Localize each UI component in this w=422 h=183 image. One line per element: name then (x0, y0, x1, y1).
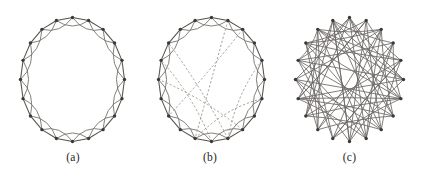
graph-node (263, 78, 266, 81)
graph-node (304, 114, 307, 117)
edge-layer (21, 18, 125, 142)
graph-node (391, 41, 394, 44)
graph-node (29, 41, 32, 44)
panel-small-world-network: (b) (140, 0, 280, 183)
arc-edge (103, 29, 122, 60)
graph-node (113, 114, 116, 117)
graph-node (71, 140, 74, 143)
ring-edge (159, 60, 162, 79)
graph-node (40, 128, 43, 131)
graph-node (193, 19, 196, 22)
arc-edge (30, 21, 56, 44)
graph-node (120, 97, 123, 100)
graph-node (399, 59, 402, 62)
rewired-edge (169, 43, 228, 138)
arc-edge (89, 116, 115, 139)
graph-node (241, 28, 244, 31)
edge-layer (296, 18, 404, 142)
graph-node (179, 28, 182, 31)
graph-node (167, 41, 170, 44)
arc-edge (23, 60, 29, 98)
graph-node (40, 28, 43, 31)
graph-node (87, 137, 90, 140)
arc-edge (256, 60, 262, 98)
caption-panel-a: (a) (0, 150, 146, 164)
graph-node (364, 137, 367, 140)
arc-edge (195, 21, 228, 27)
arc-edge (169, 21, 196, 44)
graph-node (316, 28, 319, 31)
ring-edge (262, 80, 265, 99)
ring-edge (21, 80, 24, 99)
graph-node (380, 28, 383, 31)
graph-regular-ring-lattice (0, 0, 146, 150)
graph-node (253, 114, 256, 117)
rewired-edge (169, 29, 243, 116)
random-edge (350, 18, 404, 80)
rewired-edge (195, 21, 228, 139)
graph-node (157, 78, 160, 81)
graph-node (304, 41, 307, 44)
graph-node (402, 78, 405, 81)
arc-edge (195, 133, 228, 139)
edge-layer (159, 18, 265, 142)
arc-edge (56, 21, 88, 27)
arc-edge (103, 99, 122, 130)
graph-node (253, 41, 256, 44)
graph-node (120, 59, 123, 62)
graph-node (29, 114, 32, 117)
arc-edge (243, 99, 262, 130)
graph-node (101, 128, 104, 131)
graph-node (210, 140, 213, 143)
graph-node (296, 97, 299, 100)
arc-edge (89, 21, 115, 44)
graph-node (113, 41, 116, 44)
graph-node (348, 140, 351, 143)
graph-node (226, 19, 229, 22)
arc-edge (116, 60, 122, 98)
graph-node (167, 114, 170, 117)
graph-node (294, 78, 297, 81)
graph-node (123, 78, 126, 81)
arc-edge (23, 29, 42, 60)
graph-node (193, 137, 196, 140)
ring-edge (254, 99, 262, 116)
rewired-edge (159, 80, 243, 130)
node-layer (19, 16, 126, 143)
arc-edge (169, 116, 196, 139)
random-edge (296, 80, 318, 130)
graph-node (159, 97, 162, 100)
figure-root: (a) (b) (c) (0, 0, 422, 183)
graph-node (179, 128, 182, 131)
ring-edge (23, 99, 30, 116)
graph-node (364, 19, 367, 22)
graph-node (159, 59, 162, 62)
rewired-edge (161, 60, 211, 141)
ring-edge (115, 43, 122, 60)
graph-node (296, 59, 299, 62)
panel-regular-ring-lattice: (a) (0, 0, 146, 183)
graph-node (101, 28, 104, 31)
panel-random-network: (c) (277, 0, 422, 183)
graph-node (226, 137, 229, 140)
caption-panel-b: (b) (140, 150, 280, 164)
graph-node (21, 59, 24, 62)
arc-edge (228, 116, 255, 139)
graph-node (331, 19, 334, 22)
graph-node (55, 19, 58, 22)
caption-panel-c: (c) (277, 150, 422, 164)
ring-edge (161, 43, 169, 60)
arc-edge (228, 21, 255, 44)
arc-edge (30, 116, 56, 139)
graph-node (21, 97, 24, 100)
graph-node (331, 137, 334, 140)
ring-edge (23, 43, 30, 60)
ring-edge (115, 99, 122, 116)
ring-edge (254, 43, 262, 60)
arc-edge (56, 133, 88, 139)
rewired-edge-layer (159, 21, 262, 142)
graph-node (71, 16, 74, 19)
graph-node (260, 97, 263, 100)
ring-edge (21, 60, 24, 79)
ring-edge (159, 80, 162, 99)
